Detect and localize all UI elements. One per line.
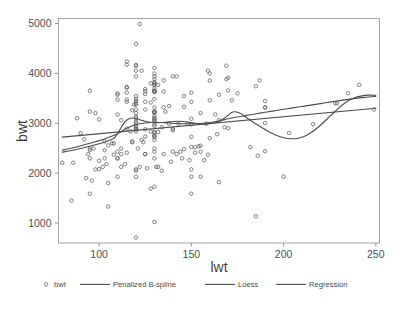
y-tick-label: 3000 (28, 117, 52, 129)
y-tick-label: 2000 (28, 167, 52, 179)
scatter-plot-svg: 10002000300040005000 100150200250 lwt bw… (0, 0, 406, 309)
legend-label: Regression (309, 280, 347, 289)
y-tick-label: 1000 (28, 217, 52, 229)
legend-label: bwt (54, 280, 67, 289)
chart-figure: 10002000300040005000 100150200250 lwt bw… (0, 0, 406, 309)
legend-label: Loess (238, 280, 258, 289)
y-tick-label: 4000 (28, 67, 52, 79)
x-tick-label: 250 (367, 248, 385, 260)
legend-label: Penalized B-spline (113, 280, 176, 289)
x-tick-label: 150 (183, 248, 201, 260)
x-axis-label: lwt (210, 259, 227, 275)
x-tick-label: 200 (275, 248, 293, 260)
y-axis-label: bwt (14, 120, 30, 142)
y-tick-label: 5000 (28, 17, 52, 29)
plot-frame (59, 19, 380, 244)
x-tick-label: 100 (90, 248, 108, 260)
